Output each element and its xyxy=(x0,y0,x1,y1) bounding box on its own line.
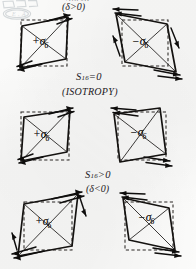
row-middle-heading-subscript: 16 xyxy=(81,74,88,82)
panel-top-right-label: −σ6 xyxy=(132,36,149,48)
row-bottom-heading: S16>0 xyxy=(85,170,111,181)
panel-top-right-drawing xyxy=(108,6,194,80)
panel-top-right-label-text: − xyxy=(132,35,140,47)
panel-mid-right-label: −σ6 xyxy=(130,127,147,139)
row-middle-heading-relation: =0 xyxy=(89,71,102,82)
sigma-subscript: 6 xyxy=(47,221,51,230)
rhombus-diagonals xyxy=(123,198,175,250)
panel-mid-left: +σ6 xyxy=(13,104,89,168)
panel-mid-right-label-text: − xyxy=(130,126,138,138)
panel-mid-left-label: +σ6 xyxy=(33,129,50,141)
panel-top-left-label: +σ6 xyxy=(32,36,49,48)
row-bottom-heading-subscript: 16 xyxy=(90,172,97,180)
sigma-subscript: 6 xyxy=(142,132,146,141)
row-bottom-heading-relation: >0 xyxy=(98,169,111,180)
sigma-subscript: 6 xyxy=(144,41,148,50)
sigma-subscript: 6 xyxy=(45,134,49,143)
panel-mid-left-drawing xyxy=(13,104,89,168)
panel-top-right: −σ6 xyxy=(108,6,194,80)
panel-bot-left-drawing xyxy=(10,186,96,264)
panel-bot-left: +σ6 xyxy=(10,186,96,264)
panel-bot-right-label: −σ6 xyxy=(138,212,155,224)
panel-mid-right: −σ6 xyxy=(104,104,182,168)
row-middle-condition: (ISOTROPY) xyxy=(62,87,118,97)
panel-mid-left-label-text: + xyxy=(33,128,41,140)
panel-bot-right-label-text: − xyxy=(138,211,146,223)
reference-square-dashed xyxy=(125,202,173,250)
panel-bot-right: −σ6 xyxy=(113,190,193,262)
panel-bot-right-drawing xyxy=(113,190,193,262)
row-middle-heading: S16=0 xyxy=(76,72,102,83)
panel-bot-left-label: +σ6 xyxy=(35,216,52,228)
figure-canvas: (δ>0) +σ6 xyxy=(0,0,196,269)
panel-top-left: +σ6 xyxy=(13,12,85,74)
bottom-cutoff-caption xyxy=(6,262,66,269)
row-top-condition: (δ>0) xyxy=(62,2,85,12)
panel-top-left-label-text: + xyxy=(32,35,40,47)
sigma-subscript: 6 xyxy=(44,41,48,50)
sigma-subscript: 6 xyxy=(150,217,154,226)
panel-bot-left-label-text: + xyxy=(35,215,43,227)
